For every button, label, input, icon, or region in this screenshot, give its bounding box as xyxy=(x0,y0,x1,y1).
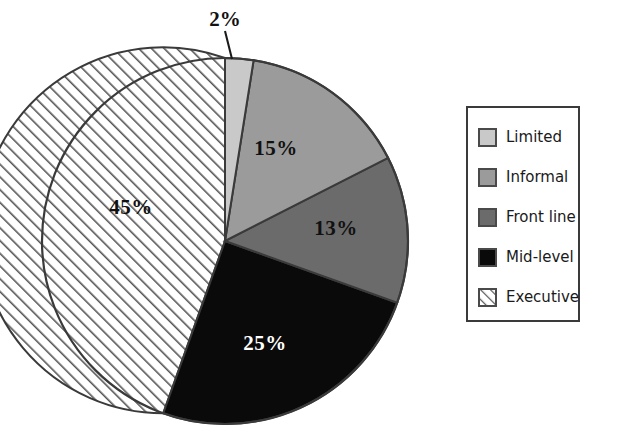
chart-legend: Limited Informal Front line Mid-level Ex… xyxy=(466,106,580,322)
slice-value-front-line: 13% xyxy=(314,216,358,241)
legend-item-front-line: Front line xyxy=(468,197,578,237)
light-gray-swatch-icon xyxy=(478,128,497,147)
medium-gray-swatch-icon xyxy=(478,168,497,187)
legend-item-executive: Executive xyxy=(468,277,578,317)
legend-label-mid-level: Mid-level xyxy=(506,250,574,265)
legend-label-informal: Informal xyxy=(506,170,568,185)
dark-gray-swatch-icon xyxy=(478,208,497,227)
legend-item-informal: Informal xyxy=(468,157,578,197)
slice-value-informal: 15% xyxy=(254,136,298,161)
black-swatch-icon xyxy=(478,248,497,267)
hatched-swatch-icon xyxy=(478,288,497,307)
slice-value-executive: 45% xyxy=(109,195,153,220)
hatch-pattern-glyph xyxy=(480,290,495,305)
callout-leader-line-limited xyxy=(225,31,232,59)
pie-chart-figure: 2% 15% 13% 25% 45% Limited Informal Fron… xyxy=(0,0,636,440)
slice-value-limited: 2% xyxy=(209,7,241,32)
legend-item-limited: Limited xyxy=(468,117,578,157)
legend-label-front-line: Front line xyxy=(506,210,576,225)
slice-value-mid-level: 25% xyxy=(243,331,287,356)
legend-label-limited: Limited xyxy=(506,130,562,145)
legend-item-mid-level: Mid-level xyxy=(468,237,578,277)
legend-label-executive: Executive xyxy=(506,290,579,305)
